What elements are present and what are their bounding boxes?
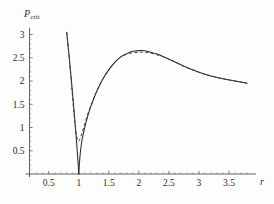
x-tick-label: 2.5 [163,178,175,188]
x-tick-label: 2 [136,178,141,188]
x-tick-label: 3 [197,178,202,188]
x-tick-label: 0.5 [43,178,55,188]
y-tick-label: 1 [20,123,25,133]
y-tick-label: 1.5 [13,100,25,110]
x-axis-label: r [260,176,264,187]
curve-solid-left-branch [67,32,79,174]
curves-group [67,32,247,174]
x-tick-label: 1.5 [103,178,115,188]
axis-labels-group: 0.511.522.533.50.511.522.53Pcritr [13,8,264,188]
y-tick-label: 0.5 [13,146,25,156]
figure-canvas: 0.511.522.533.50.511.522.53Pcritr [0,0,274,204]
caption-fragment [4,195,270,203]
x-tick-label: 1 [76,178,81,188]
y-tick-label: 2 [20,76,25,86]
y-axis-label: Pcrit [23,8,40,20]
curve-dashed [67,32,247,141]
chart-plot: 0.511.522.533.50.511.522.53Pcritr [0,0,274,204]
y-axis-label-subscript: crit [31,13,40,20]
y-tick-label: 3 [20,30,25,40]
x-tick-label: 3.5 [223,178,235,188]
y-tick-label: 2.5 [13,53,25,63]
curve-solid-right-branch [79,50,247,174]
